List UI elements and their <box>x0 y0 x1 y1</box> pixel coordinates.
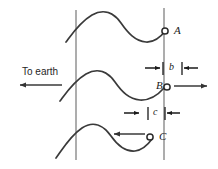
wave-bottom <box>56 124 152 158</box>
to-earth-label: To earth <box>22 67 58 77</box>
point-c-label: C <box>159 131 166 142</box>
diagram-canvas <box>0 0 218 169</box>
point-b-marker <box>164 84 170 90</box>
point-b-label: B <box>156 80 163 91</box>
point-a-label: A <box>174 25 181 36</box>
wave-diagram-figure: To earth A B C b c <box>0 0 218 169</box>
point-a-marker <box>162 28 168 34</box>
dimension-b-label: b <box>169 62 174 72</box>
dimension-c-label: c <box>153 107 157 117</box>
wave-top <box>66 12 166 42</box>
point-c-marker <box>147 134 153 140</box>
